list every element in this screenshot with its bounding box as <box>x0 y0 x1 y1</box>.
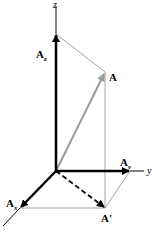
a-prime-label: A' <box>101 212 112 224</box>
component-ax-arrow <box>21 171 56 207</box>
vector-a-arrow <box>56 74 104 171</box>
a-x-label: Ax <box>6 197 18 212</box>
construction-line-ay-to-aprime <box>105 171 130 208</box>
a-y-label: Ay <box>120 156 132 171</box>
a-z-label: Az <box>36 48 47 63</box>
a-vector-label: A <box>109 71 117 83</box>
construction-line-az-to-a <box>56 34 105 72</box>
z-axis-label: z <box>52 0 57 10</box>
y-axis-label: y <box>146 165 152 176</box>
vector-components-diagram: z y Az A Ay Ax A' <box>0 0 158 241</box>
projection-aprime-arrow <box>56 171 104 207</box>
